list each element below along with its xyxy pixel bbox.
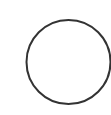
circle-shape	[0, 0, 111, 115]
canvas	[0, 0, 111, 115]
circle-icon	[27, 20, 111, 104]
